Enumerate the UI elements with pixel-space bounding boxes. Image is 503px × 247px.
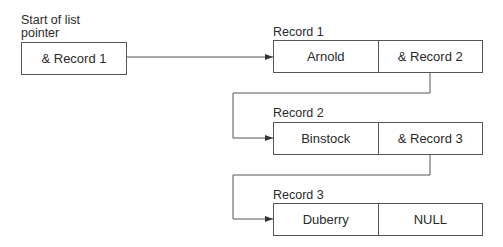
record-2-box: Binstock & Record 3	[273, 122, 483, 155]
record-1-title: Record 1	[273, 26, 324, 39]
start-pointer-label: Start of list pointer	[21, 14, 80, 40]
record-2-name: Binstock	[274, 123, 378, 154]
record-1-next: & Record 2	[378, 41, 483, 72]
start-pointer-box: & Record 1	[21, 42, 127, 75]
record-2-title: Record 2	[273, 107, 324, 120]
start-label-line2: pointer	[21, 27, 80, 40]
record-3-next: NULL	[378, 204, 483, 235]
record-3-name: Duberry	[274, 204, 378, 235]
record-2-next: & Record 3	[378, 123, 483, 154]
record-3-title: Record 3	[273, 189, 324, 202]
record-1-box: Arnold & Record 2	[273, 40, 483, 73]
record-1-name: Arnold	[274, 41, 378, 72]
record-3-box: Duberry NULL	[273, 203, 483, 236]
start-pointer-value: & Record 1	[22, 43, 126, 74]
